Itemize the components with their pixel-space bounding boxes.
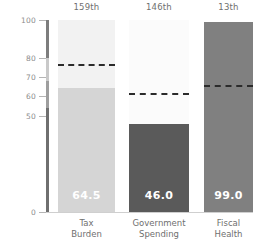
- category-label-tax-burden: Tax Burden: [58, 218, 115, 239]
- bar-chart: 100 80 70 60 50 0 159th 64.5 Tax Burden …: [0, 0, 263, 247]
- bar-group-fiscal-health[interactable]: 99.0: [204, 20, 253, 212]
- rank-label-government-spending: 146th: [129, 3, 189, 12]
- y-tick-label-80: 80: [26, 55, 36, 63]
- y-tick-label-0: 0: [31, 209, 36, 217]
- reference-line-tax-burden: [58, 64, 115, 66]
- y-tick-80: [39, 58, 46, 59]
- y-axis-spine: [46, 20, 49, 212]
- bar-value-fiscal-health: 99.0: [204, 190, 253, 201]
- bar-group-tax-burden[interactable]: 64.5: [58, 20, 115, 212]
- y-tick-70: [39, 77, 46, 78]
- bar-value-tax-burden: 64.5: [58, 190, 115, 201]
- rank-label-fiscal-health: 13th: [204, 3, 253, 12]
- y-tick-label-100: 100: [21, 17, 36, 25]
- y-tick-0: [39, 212, 46, 213]
- rank-label-tax-burden: 159th: [58, 3, 115, 12]
- bar-fill-fiscal-health: [204, 22, 253, 212]
- category-label-fiscal-health: Fiscal Health: [199, 218, 258, 239]
- category-label-government-spending: Government Spending: [124, 218, 194, 239]
- y-tick-label-60: 60: [26, 93, 36, 101]
- y-tick-60: [39, 96, 46, 97]
- reference-line-fiscal-health: [204, 85, 253, 87]
- bar-value-government-spending: 46.0: [129, 190, 189, 201]
- bar-group-government-spending[interactable]: 46.0: [129, 20, 189, 212]
- y-tick-label-70: 70: [26, 74, 36, 82]
- reference-line-government-spending: [129, 93, 189, 95]
- y-tick-100: [39, 20, 46, 21]
- x-axis-baseline: [46, 212, 253, 213]
- y-tick-label-50: 50: [26, 113, 36, 121]
- y-tick-50: [39, 116, 46, 117]
- plot-area: 100 80 70 60 50 0 159th 64.5 Tax Burden …: [0, 0, 263, 247]
